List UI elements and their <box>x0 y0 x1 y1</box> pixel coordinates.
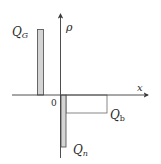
qg-label: QG <box>12 25 29 40</box>
qb-label: Qb <box>110 108 125 123</box>
qg-bar <box>38 30 44 96</box>
charge-density-diagram: ρ x 0 QG Qb Qn <box>0 0 161 164</box>
qn-bar <box>61 95 66 147</box>
qn-label: Qn <box>73 143 88 158</box>
y-axis-label: ρ <box>65 21 73 34</box>
origin-label: 0 <box>51 98 57 108</box>
x-axis-label: x <box>137 82 143 93</box>
qb-region <box>66 95 107 113</box>
